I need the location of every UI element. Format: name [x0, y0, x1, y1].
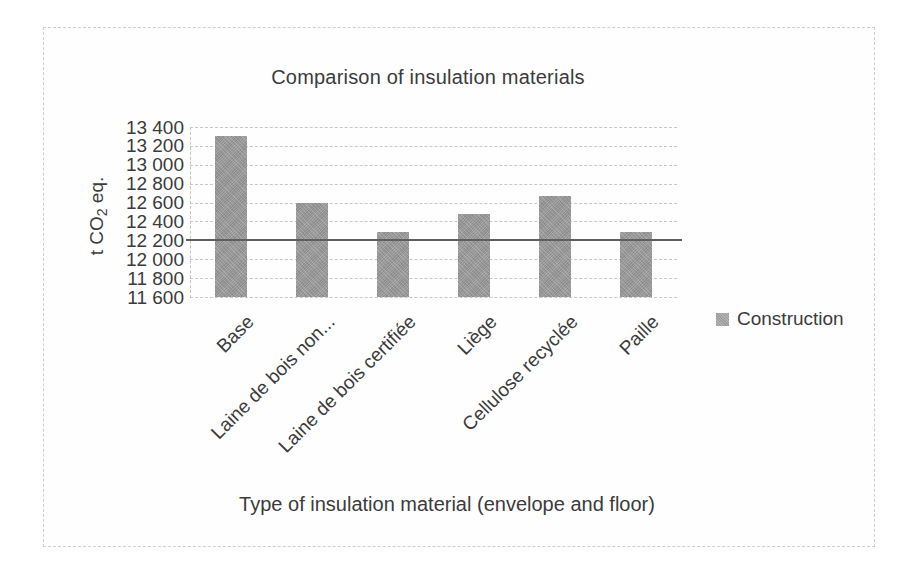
bar-paille[interactable] [620, 232, 652, 297]
y-tick-label-11600: 11 600 [92, 288, 184, 307]
gridline-12600 [190, 203, 677, 204]
gridline-12000 [190, 259, 677, 260]
bar-cellulose-recycl-e[interactable] [539, 196, 571, 297]
gridline-12800 [190, 184, 677, 185]
legend: Construction [716, 308, 844, 330]
gridline-13000 [190, 165, 677, 166]
x-axis-title: Type of insulation material (envelope an… [197, 493, 697, 516]
reference-line-12200 [186, 239, 682, 241]
y-tick-label-12400: 12 400 [92, 212, 184, 231]
gridline-11600 [190, 297, 677, 298]
bar-li-ge[interactable] [458, 214, 490, 297]
y-tick-label-12600: 12 600 [92, 193, 184, 212]
y-tick-label-13400: 13 400 [92, 118, 184, 137]
y-tick-label-12200: 12 200 [92, 231, 184, 250]
y-tick-label-12000: 12 000 [92, 250, 184, 269]
y-tick-label-13000: 13 000 [92, 155, 184, 174]
y-tick-label-13200: 13 200 [92, 136, 184, 155]
gridline-12400 [190, 221, 677, 222]
gridline-11800 [190, 278, 677, 279]
bar-laine-de-bois-non-[interactable] [296, 203, 328, 297]
legend-label-construction: Construction [737, 308, 844, 330]
y-tick-label-11800: 11 800 [92, 269, 184, 288]
bar-base[interactable] [215, 136, 247, 297]
y-axis-line [190, 127, 191, 298]
bar-laine-de-bois-certifi-e[interactable] [377, 232, 409, 297]
chart-title: Comparison of insulation materials [178, 66, 678, 89]
scanned-figure-page: Comparison of insulation materials t CO2… [0, 0, 918, 587]
gridline-13400 [190, 127, 677, 128]
y-tick-label-12800: 12 800 [92, 174, 184, 193]
legend-swatch-construction [716, 313, 729, 326]
gridline-13200 [190, 146, 677, 147]
